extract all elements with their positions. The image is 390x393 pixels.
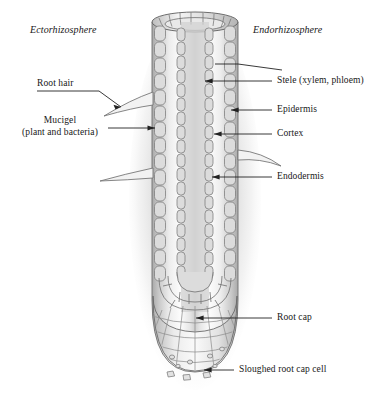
label-root-cap: Root cap: [277, 312, 312, 323]
label-sloughed-root-cap-cell: Sloughed root cap cell: [239, 364, 326, 375]
label-epidermis: Epidermis: [277, 104, 317, 115]
label-ectorhizosphere: Ectorhizosphere: [30, 24, 97, 35]
label-stele: Stele (xylem, phloem): [277, 75, 364, 86]
label-mucigel: Mucigel: [10, 115, 110, 126]
root-illustration: [0, 0, 390, 393]
root-diagram: Ectorhizosphere Endorhizosphere Root hai…: [0, 0, 390, 393]
label-endorhizosphere: Endorhizosphere: [253, 24, 322, 35]
label-root-hair: Root hair: [37, 78, 74, 89]
label-cortex: Cortex: [277, 128, 303, 139]
label-endodermis: Endodermis: [277, 171, 324, 182]
label-mucigel-sub: (plant and bacteria): [5, 127, 115, 138]
